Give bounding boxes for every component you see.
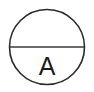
ammeter-symbol-svg: A — [0, 0, 94, 92]
ammeter-letter-a: A — [39, 52, 56, 80]
ammeter-symbol-canvas: A — [0, 0, 94, 92]
